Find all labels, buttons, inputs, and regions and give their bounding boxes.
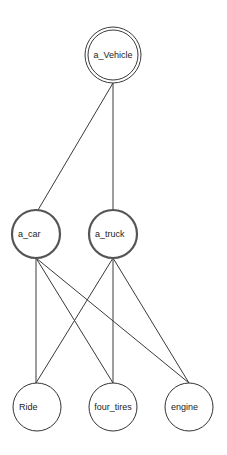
node-label: engine: [171, 402, 198, 412]
node-label: a_Vehicle: [93, 50, 132, 60]
node-label: four_tires: [94, 402, 132, 412]
node-label: Ride: [19, 402, 38, 412]
node-four-tires[interactable]: four_tires: [89, 383, 137, 431]
node-label: a_car: [18, 229, 41, 239]
node-a-car[interactable]: a_car: [12, 210, 60, 258]
node-ride[interactable]: Ride: [13, 383, 61, 431]
edge-vehicle-car: [38, 83, 113, 210]
graph-canvas: a_Vehicle a_car a_truck Ride four_tires …: [0, 0, 227, 455]
node-a-vehicle[interactable]: a_Vehicle: [85, 27, 141, 83]
node-a-truck[interactable]: a_truck: [89, 210, 137, 258]
edge-truck-engine: [113, 258, 189, 383]
node-engine[interactable]: engine: [165, 383, 213, 431]
node-label: a_truck: [95, 229, 125, 239]
